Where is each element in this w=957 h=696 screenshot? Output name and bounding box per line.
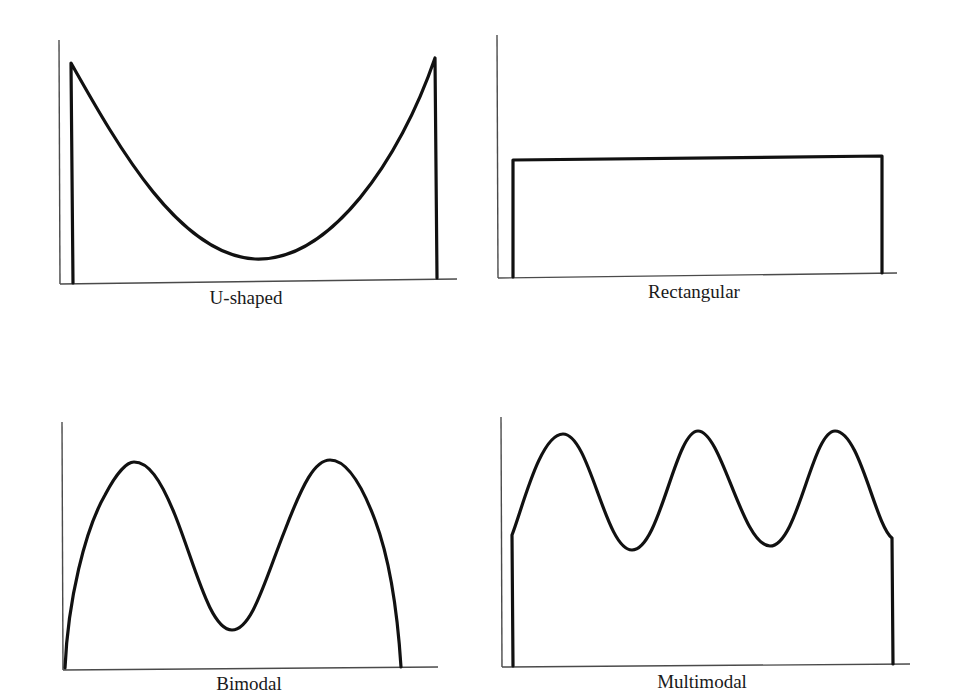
- figure-canvas: [0, 0, 957, 696]
- y-axis: [497, 35, 498, 278]
- panel-multimodal: [501, 417, 910, 667]
- x-axis: [63, 667, 438, 670]
- u-shaped-curve: [71, 58, 437, 283]
- x-axis: [502, 664, 910, 667]
- panel-u-shaped: [59, 40, 457, 284]
- y-axis: [59, 40, 60, 284]
- bimodal-label: Bimodal: [216, 673, 281, 695]
- x-axis: [498, 273, 897, 278]
- multimodal-label: Multimodal: [657, 671, 747, 693]
- bimodal-curve: [65, 460, 401, 668]
- x-axis: [60, 279, 457, 284]
- y-axis: [62, 422, 63, 670]
- u-shaped-label: U-shaped: [210, 287, 283, 309]
- y-axis: [501, 417, 502, 667]
- panel-bimodal: [62, 422, 438, 670]
- multimodal-curve: [512, 431, 893, 666]
- rectangular-curve: [513, 156, 882, 277]
- panel-rectangular: [497, 35, 897, 278]
- rectangular-label: Rectangular: [648, 281, 740, 303]
